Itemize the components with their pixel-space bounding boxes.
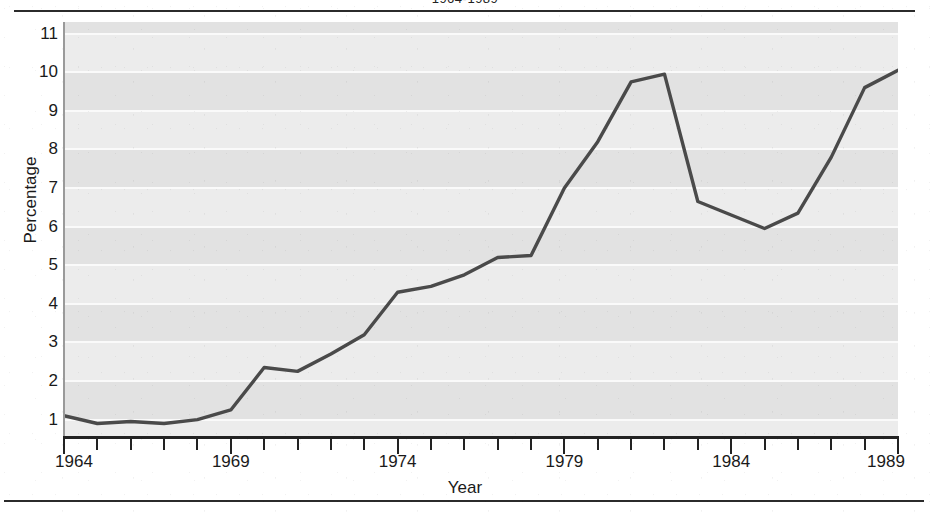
figure-caption: 1964-1989 (0, 0, 930, 5)
x-tick-label: 1969 (212, 452, 250, 472)
y-tick-label: 5 (49, 255, 58, 275)
bottom-horizontal-rule (4, 500, 924, 502)
x-tick-minor (630, 439, 632, 450)
x-tick-minor (497, 439, 499, 450)
x-tick-minor (597, 439, 599, 450)
figure-container: 1964-1989 1234567891011 1964196919741979… (0, 0, 930, 514)
y-axis-title: Percentage (21, 105, 41, 295)
y-axis-line (63, 22, 65, 438)
x-tick-minor (163, 439, 165, 450)
x-axis-line (63, 436, 899, 439)
data-series-line (64, 22, 898, 437)
y-tick-label: 7 (49, 178, 58, 198)
x-tick-minor (864, 439, 866, 450)
top-horizontal-rule (14, 10, 915, 12)
x-tick-label: 1984 (712, 452, 750, 472)
x-tick-label: 1989 (867, 452, 905, 472)
y-tick-label: 10 (39, 62, 58, 82)
y-tick-label: 1 (49, 410, 58, 430)
x-axis-title: Year (0, 478, 930, 498)
x-tick-minor (797, 439, 799, 450)
x-tick-minor (263, 439, 265, 450)
y-tick-label: 4 (49, 294, 58, 314)
x-tick-minor (196, 439, 198, 450)
y-tick-label: 8 (49, 139, 58, 159)
x-tick-minor (764, 439, 766, 450)
x-tick-label: 1979 (545, 452, 583, 472)
x-tick-label: 1964 (55, 452, 93, 472)
y-tick-label: 9 (49, 101, 58, 121)
x-tick-minor (297, 439, 299, 450)
x-tick-minor (96, 439, 98, 450)
x-tick-minor (430, 439, 432, 450)
x-tick-minor (463, 439, 465, 450)
y-tick-label: 11 (40, 24, 58, 44)
x-tick-label: 1974 (379, 452, 417, 472)
x-tick-minor (130, 439, 132, 450)
x-tick-minor (363, 439, 365, 450)
x-tick-minor (697, 439, 699, 450)
x-tick-minor (663, 439, 665, 450)
y-tick-label: 6 (49, 217, 58, 237)
x-tick-minor (330, 439, 332, 450)
plot-area (64, 22, 898, 437)
x-tick-minor (530, 439, 532, 450)
y-tick-label: 2 (49, 371, 58, 391)
y-tick-label: 3 (49, 332, 58, 352)
x-tick-minor (830, 439, 832, 450)
